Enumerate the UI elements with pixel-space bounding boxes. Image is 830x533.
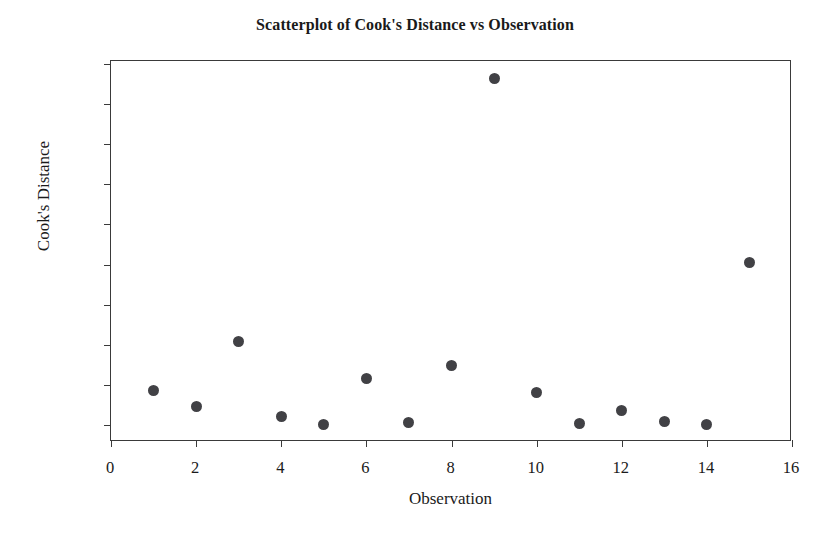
chart-page: Scatterplot of Cook's Distance vs Observ…	[0, 0, 830, 533]
x-tick-label: 2	[165, 458, 225, 478]
x-tick-mark	[622, 440, 623, 447]
y-axis: 0.00.10.20.30.40.50.60.70.80.9	[0, 60, 830, 441]
x-tick-label: 8	[421, 458, 481, 478]
x-tick-mark	[792, 440, 793, 447]
x-tick-mark	[111, 440, 112, 447]
x-tick-label: 6	[335, 458, 395, 478]
x-tick-mark	[707, 440, 708, 447]
x-tick-mark	[196, 440, 197, 447]
x-tick-label: 16	[761, 458, 821, 478]
x-tick-label: 14	[676, 458, 736, 478]
x-tick-mark	[366, 440, 367, 447]
x-tick-label: 10	[506, 458, 566, 478]
x-tick-label: 0	[80, 458, 140, 478]
x-tick-mark	[537, 440, 538, 447]
x-tick-mark	[452, 440, 453, 447]
page-title: Scatterplot of Cook's Distance vs Observ…	[0, 16, 830, 34]
y-axis-title: Cook's Distance	[34, 96, 54, 296]
x-tick-mark	[281, 440, 282, 447]
x-tick-label: 4	[250, 458, 310, 478]
x-axis-title: Observation	[110, 489, 791, 509]
x-tick-label: 12	[591, 458, 651, 478]
